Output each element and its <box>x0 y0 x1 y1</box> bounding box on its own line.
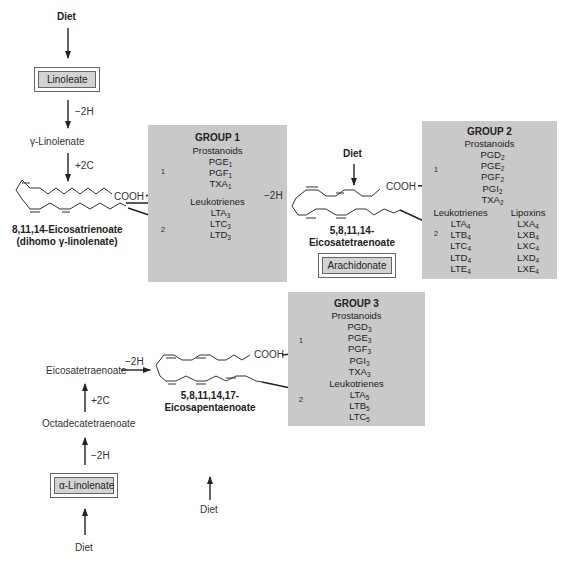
octadecatetraenoate-label: Octadecatetraenoate <box>42 418 135 429</box>
route-2-label-g2: 2 <box>430 229 442 238</box>
route-1-label-g2: 1 <box>430 165 442 174</box>
group3-prostanoid-item: PGD3 <box>294 321 425 332</box>
group2-lipoxin-item: LXC4 <box>511 240 546 251</box>
group2-leukotriene-item: LTD4 <box>433 252 487 263</box>
group2-prostanoid-item: PGF2 <box>428 171 557 182</box>
group3-prostanoid-item: PGF3 <box>294 343 425 354</box>
group3-prostanoids-label: Prostanoids <box>288 310 425 321</box>
linoleate-label: Linoleate <box>38 71 96 88</box>
group2-lipoxins-list: LXA4LXB4LXC4LXD4LXE4 <box>511 218 546 274</box>
group3-leukotriene-item: LTB5 <box>294 400 425 411</box>
group1-leukotriene-item: LTC3 <box>154 218 287 229</box>
group3-prostanoid-item: PGI3 <box>294 355 425 366</box>
alpha-linolenate-box: α-Linolenate <box>50 473 118 498</box>
group2-leukotrienes-list: LTA4LTB4LTC4LTD4LTE4 <box>433 218 487 274</box>
cooh-label-1: COOH <box>114 191 144 202</box>
group1-prostanoids-list: PGE1PGF1TXA1 <box>154 156 287 190</box>
group3-prostanoid-item: PGE3 <box>294 332 425 343</box>
diet-label-bottom: Diet <box>75 542 93 553</box>
linoleate-box: Linoleate <box>34 67 100 92</box>
group2-prostanoids-list: PGD2PGE2PGF2PGI2TXA2 <box>428 149 557 205</box>
group3-box: GROUP 3 Prostanoids PGD3PGE3PGF3PGI3TXA3… <box>288 292 425 426</box>
group1-prostanoid-item: PGE1 <box>154 156 287 167</box>
diet-label-mid: Diet <box>200 504 218 515</box>
eicosatetraenoate-name: 5,8,11,14- Eicosatetraenoate <box>296 225 408 249</box>
eicosapentaenoate-name: 5,8,11,14,17- Eicosapentaenoate <box>160 390 260 414</box>
eicosapentaenoate-name-line1: 5,8,11,14,17- <box>160 390 260 402</box>
route-1-label-g1: 1 <box>157 167 169 176</box>
cooh-label-2: COOH <box>386 181 416 192</box>
group2-prostanoid-item: TXA2 <box>428 194 557 205</box>
eicosatetraenoate-name-line2: Eicosatetraenoate <box>296 237 408 249</box>
group2-title: GROUP 2 <box>422 126 557 137</box>
group1-prostanoid-item: PGF1 <box>154 167 287 178</box>
gamma-linolenate-label: γ-Linolenate <box>30 136 84 147</box>
step-plus-2c-3: +2C <box>91 395 110 406</box>
arachidonate-label: Arachidonate <box>322 257 392 274</box>
group3-leukotriene-item: LTC5 <box>294 411 425 422</box>
group2-leukotriene-item: LTA4 <box>433 218 487 229</box>
eicosatetraenoate-label: Eicosatetraenoate <box>46 365 127 376</box>
step-minus-2h-to-arachidonate: −2H <box>264 190 283 201</box>
arachidonate-box: Arachidonate <box>318 253 396 278</box>
eicosatrienoate-name-line1: 8,11,14-Eicosatrienoate <box>12 224 122 236</box>
group3-leukotrienes-list: LTA5LTB5LTC5 <box>294 389 425 423</box>
group1-leukotrienes-list: LTA3LTC3LTD3 <box>154 207 287 241</box>
group1-leukotriene-item: LTA3 <box>154 207 287 218</box>
group2-prostanoid-item: PGI2 <box>428 183 557 194</box>
diet-label-arachidonate: Diet <box>343 148 362 159</box>
step-minus-2h-1: −2H <box>75 106 94 117</box>
group2-prostanoid-item: PGD2 <box>428 149 557 160</box>
eicosatetraenoate-name-line1: 5,8,11,14- <box>296 225 408 237</box>
alpha-linolenate-label: α-Linolenate <box>54 477 114 494</box>
group1-leukotriene-item: LTD3 <box>154 229 287 240</box>
group1-prostanoid-item: TXA1 <box>154 178 287 189</box>
group2-prostanoids-label: Prostanoids <box>422 138 557 149</box>
group2-prostanoid-item: PGE2 <box>428 160 557 171</box>
group2-lipoxins-label: Lipoxins <box>511 207 546 218</box>
step-minus-2h-3: −2H <box>125 356 144 367</box>
route-1-label-g3: 1 <box>295 336 307 345</box>
route-2-label-g1: 2 <box>157 225 169 234</box>
group2-box: GROUP 2 Prostanoids PGD2PGE2PGF2PGI2TXA2… <box>422 121 557 279</box>
diet-label-top: Diet <box>57 11 76 22</box>
route-2-label-g3: 2 <box>295 395 307 404</box>
eicosapentaenoate-name-line2: Eicosapentaenoate <box>160 402 260 414</box>
group2-lipoxin-item: LXA4 <box>511 218 546 229</box>
group2-lipoxin-item: LXB4 <box>511 229 546 240</box>
group3-leukotrienes-label: Leukotrienes <box>288 378 425 389</box>
group2-leukotriene-item: LTC4 <box>433 240 487 251</box>
group2-lipoxin-item: LXD4 <box>511 252 546 263</box>
group3-title: GROUP 3 <box>288 298 425 309</box>
step-plus-2c-1: +2C <box>75 160 94 171</box>
group2-leukotrienes-label: Leukotrienes <box>433 207 487 218</box>
group2-lipoxin-item: LXE4 <box>511 263 546 274</box>
eicosatrienoate-name: 8,11,14-Eicosatrienoate (dihomo γ-linole… <box>12 224 122 248</box>
group1-prostanoids-label: Prostanoids <box>148 145 287 156</box>
group3-leukotriene-item: LTA5 <box>294 389 425 400</box>
group3-prostanoid-item: TXA3 <box>294 366 425 377</box>
cooh-label-3: COOH <box>254 349 284 360</box>
group1-box: GROUP 1 Prostanoids PGE1PGF1TXA1 Leukotr… <box>148 125 287 282</box>
group2-leukotriene-item: LTE4 <box>433 263 487 274</box>
group3-prostanoids-list: PGD3PGE3PGF3PGI3TXA3 <box>294 321 425 377</box>
eicosatrienoate-name-line2: (dihomo γ-linolenate) <box>12 236 122 248</box>
group1-title: GROUP 1 <box>148 132 287 143</box>
step-minus-2h-alpha: −2H <box>91 450 110 461</box>
